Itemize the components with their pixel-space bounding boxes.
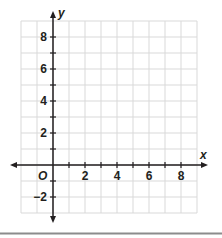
y-tick-label: 4	[40, 94, 47, 108]
y-tick-label: 2	[40, 126, 47, 140]
grid-lines	[21, 21, 197, 213]
x-tick-label: 2	[82, 169, 89, 183]
y-tick-label: 6	[40, 62, 47, 76]
x-tick-label: 8	[178, 169, 185, 183]
coordinate-plane: 24688642−2 x y O	[0, 0, 222, 238]
x-axis-label: x	[199, 148, 208, 162]
x-tick-label: 6	[146, 169, 153, 183]
origin-label: O	[38, 169, 48, 183]
y-axis-label: y	[57, 6, 66, 20]
y-tick-label: −2	[33, 190, 47, 204]
y-axis-up-arrow-icon	[50, 11, 56, 18]
y-axis-down-arrow-icon	[50, 216, 56, 223]
x-tick-label: 4	[114, 169, 121, 183]
x-axis-right-arrow-icon	[201, 162, 208, 168]
x-axis-left-arrow-icon	[10, 162, 17, 168]
y-tick-label: 8	[40, 30, 47, 44]
